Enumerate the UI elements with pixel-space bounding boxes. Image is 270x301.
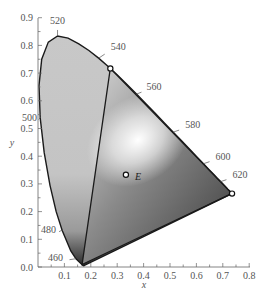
x-axis: 0.10.20.30.40.50.60.70.8 x	[38, 263, 255, 290]
white-point-label: E	[134, 171, 141, 182]
wavelength-tick	[220, 180, 226, 182]
wavelength-tick	[136, 92, 141, 94]
wavelength-label-500: 500	[22, 112, 37, 123]
wavelength-label-480: 480	[41, 224, 56, 235]
y-tick-label: 0.2	[21, 206, 34, 217]
wavelength-tick	[204, 162, 210, 164]
wavelength-tick	[173, 130, 179, 132]
x-tick-label: 0.5	[164, 270, 177, 281]
y-axis: 0.00.10.20.30.40.50.60.70.80.9 y	[9, 12, 42, 272]
wavelength-label-460: 460	[48, 252, 63, 263]
x-tick-label: 0.6	[190, 270, 203, 281]
x-tick-label: 0.8	[243, 270, 256, 281]
plot-area: 460480500520540560580600620 E	[22, 15, 247, 266]
wavelength-label-540: 540	[111, 41, 126, 52]
chromaticity-diagram: 460480500520540560580600620 E 0.10.20.30…	[0, 0, 270, 301]
x-tick-label: 0.3	[111, 270, 124, 281]
wavelength-label-600: 600	[216, 151, 231, 162]
primary-r-marker	[229, 191, 234, 196]
primary-g-marker	[108, 66, 113, 71]
wavelength-tick	[99, 54, 105, 58]
wavelength-label-620: 620	[232, 169, 247, 180]
y-tick-label: 0.1	[21, 234, 34, 245]
white-point-e-marker	[123, 172, 128, 177]
y-tick-label: 0.7	[21, 68, 34, 79]
y-tick-label: 0.0	[21, 262, 34, 273]
wavelength-tick	[70, 259, 77, 260]
x-axis-title: x	[141, 279, 147, 290]
y-tick-label: 0.4	[21, 151, 34, 162]
wavelength-label-580: 580	[185, 119, 200, 130]
wavelength-label-560: 560	[146, 81, 161, 92]
y-tick-label: 0.9	[21, 12, 34, 23]
wavelength-tick	[59, 230, 62, 232]
wavelength-label-520: 520	[50, 15, 65, 26]
y-axis-title: y	[9, 137, 15, 148]
y-tick-label: 0.5	[21, 123, 34, 134]
y-tick-label: 0.6	[21, 95, 34, 106]
x-tick-label: 0.2	[85, 270, 98, 281]
x-tick-label: 0.7	[217, 270, 230, 281]
y-tick-label: 0.8	[21, 40, 34, 51]
x-tick-label: 0.1	[58, 270, 71, 281]
y-tick-label: 0.3	[21, 178, 34, 189]
